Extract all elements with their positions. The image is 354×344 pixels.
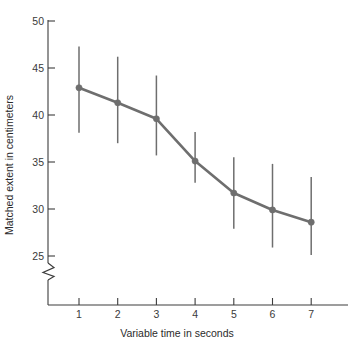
x-tick-label: 1 [76,308,82,320]
data-point-marker [192,158,198,164]
y-axis-break-symbol [43,263,54,280]
x-axis-ticks: 1234567 [76,298,314,320]
y-tick-label: 25 [32,250,44,262]
error-bars [79,46,311,255]
y-axis-title: Matched extent in centimeters [3,95,15,235]
data-point-marker [153,116,159,122]
chart-figure: 253035404550 1234567 Variable time in se… [0,0,354,344]
y-axis-ticks: 253035404550 [32,15,55,262]
x-axis-title: Variable time in seconds [120,327,234,339]
x-tick-label: 3 [153,308,159,320]
y-tick-label: 40 [32,109,44,121]
x-tick-label: 4 [192,308,198,320]
y-tick-label: 35 [32,156,44,168]
y-tick-label: 50 [32,15,44,27]
x-tick-label: 2 [115,308,121,320]
data-point-marker [115,100,121,106]
data-point-marker [308,219,314,225]
x-tick-label: 5 [231,308,237,320]
data-point-marker [76,85,82,91]
x-tick-label: 6 [270,308,276,320]
data-point-marker [231,190,237,196]
chart-canvas: 253035404550 1234567 Variable time in se… [0,0,354,344]
y-tick-label: 30 [32,203,44,215]
y-tick-label: 45 [32,62,44,74]
data-point-marker [269,207,275,213]
x-tick-label: 7 [308,308,314,320]
